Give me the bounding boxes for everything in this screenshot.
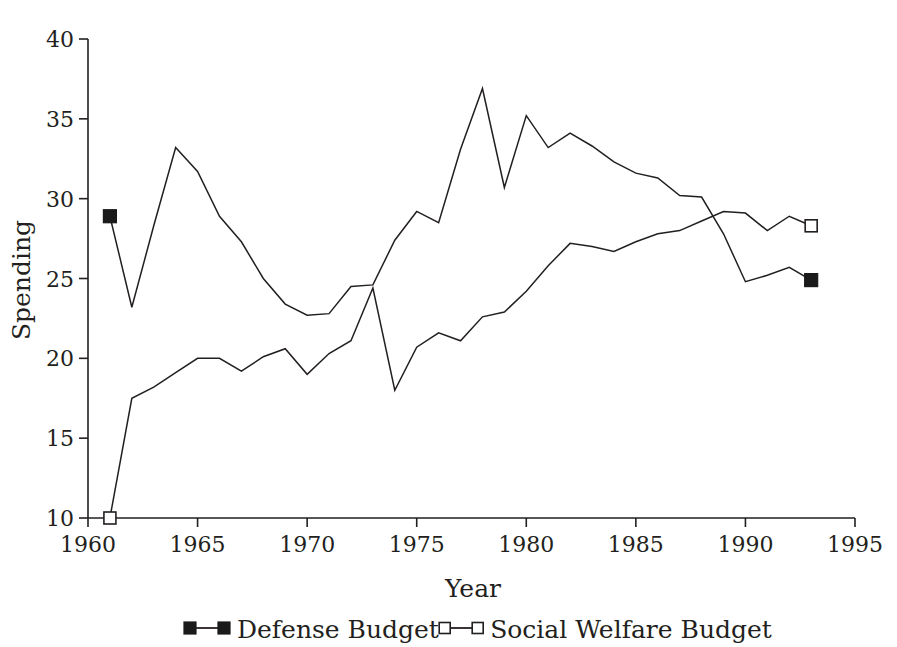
axis-group: 10152025303540 1960196519701975198019851… — [46, 27, 883, 557]
x-tick-label: 1965 — [170, 532, 226, 557]
chart-figure: 10152025303540 1960196519701975198019851… — [0, 0, 897, 647]
legend-entry: Social Welfare Budget — [439, 615, 772, 644]
legend-label: Social Welfare Budget — [490, 615, 772, 644]
legend-marker — [184, 622, 196, 634]
y-axis-tick-labels: 10152025303540 — [46, 27, 74, 531]
y-axis-ticks — [79, 39, 88, 518]
line-chart: 10152025303540 1960196519701975198019851… — [0, 0, 897, 647]
x-tick-label: 1990 — [717, 532, 773, 557]
x-axis-ticks — [88, 518, 855, 527]
x-axis-tick-labels: 19601965197019751980198519901995 — [60, 532, 883, 557]
series-line-defense-budget — [110, 89, 811, 316]
x-tick-label: 1970 — [279, 532, 335, 557]
data-point-marker — [805, 274, 818, 287]
y-tick-label: 30 — [46, 187, 74, 212]
data-series-group — [103, 89, 817, 525]
legend-marker — [439, 623, 450, 634]
legend-entry: Defense Budget — [184, 615, 439, 644]
data-point-marker — [104, 512, 116, 524]
legend-label: Defense Budget — [237, 615, 439, 644]
data-point-marker — [805, 220, 817, 232]
y-tick-label: 25 — [46, 267, 74, 292]
x-tick-label: 1985 — [608, 532, 664, 557]
x-tick-label: 1995 — [827, 532, 883, 557]
x-tick-label: 1975 — [389, 532, 445, 557]
y-tick-label: 20 — [46, 346, 74, 371]
data-point-marker — [103, 210, 116, 223]
legend-marker — [218, 622, 230, 634]
y-tick-label: 10 — [46, 506, 74, 531]
x-tick-label: 1960 — [60, 532, 116, 557]
legend-marker — [472, 623, 483, 634]
chart-legend: Defense BudgetSocial Welfare Budget — [184, 615, 772, 644]
y-tick-label: 15 — [46, 426, 74, 451]
x-tick-label: 1980 — [498, 532, 554, 557]
y-axis-title: Spending — [7, 220, 36, 340]
y-tick-label: 35 — [46, 107, 74, 132]
series-line-social-welfare-budget — [110, 211, 811, 518]
x-axis-title: Year — [444, 574, 501, 603]
y-tick-label: 40 — [46, 27, 74, 52]
